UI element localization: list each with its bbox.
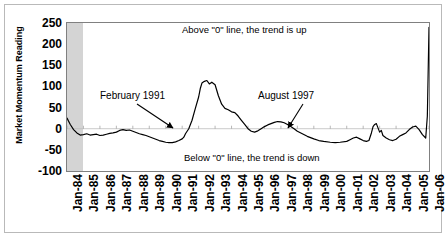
x-tick-label: Jan-92 bbox=[203, 174, 217, 234]
x-tick-label: Jan-93 bbox=[219, 174, 233, 234]
x-tick-label: Jan-00 bbox=[334, 174, 348, 234]
x-tick-label: Jan-05 bbox=[417, 174, 431, 234]
x-tick-label: Jan-90 bbox=[170, 174, 184, 234]
x-tick-label: Jan-04 bbox=[400, 174, 414, 234]
x-tick-label: Jan-85 bbox=[87, 174, 101, 234]
x-tick-label: Jan-01 bbox=[351, 174, 365, 234]
chart-figure: Market Momentum Reading 250200150100500-… bbox=[0, 0, 448, 239]
x-tick-label: Jan-95 bbox=[252, 174, 266, 234]
x-tick-label: Jan-99 bbox=[318, 174, 332, 234]
x-tick-label: Jan-88 bbox=[137, 174, 151, 234]
x-tick-label: Jan-94 bbox=[236, 174, 250, 234]
x-tick-label: Jan-02 bbox=[367, 174, 381, 234]
x-tick-label: Jan-97 bbox=[285, 174, 299, 234]
x-tick-label: Jan-84 bbox=[71, 174, 85, 234]
x-tick-label: Jan-96 bbox=[268, 174, 282, 234]
x-tick-label: Jan-91 bbox=[186, 174, 200, 234]
x-axis-tick-labels: Jan-84Jan-85Jan-86Jan-87Jan-88Jan-89Jan-… bbox=[0, 0, 448, 239]
x-tick-label: Jan-03 bbox=[384, 174, 398, 234]
x-tick-label: Jan-86 bbox=[104, 174, 118, 234]
x-tick-label: Jan-06 bbox=[433, 174, 447, 234]
x-tick-label: Jan-89 bbox=[153, 174, 167, 234]
x-tick-label: Jan-87 bbox=[120, 174, 134, 234]
x-tick-label: Jan-98 bbox=[301, 174, 315, 234]
